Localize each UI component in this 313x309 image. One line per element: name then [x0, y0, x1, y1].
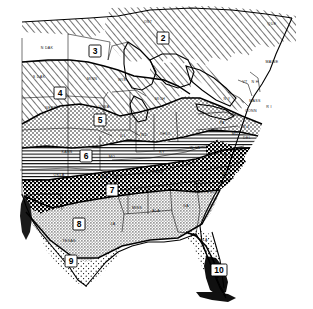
state-label: R I: [266, 105, 272, 109]
state-label: PA: [219, 121, 224, 125]
state-label: ARK: [100, 175, 109, 179]
state-label: KY: [159, 150, 165, 154]
state-label: ALA: [152, 209, 160, 213]
state-label: CONN: [245, 109, 257, 113]
zone-label-text: 2: [161, 33, 166, 43]
state-label: N C: [222, 171, 229, 175]
state-label: ONT: [144, 20, 153, 24]
zone-label-4: 4: [54, 87, 66, 99]
state-label: N DAK: [41, 46, 54, 50]
zone-label-3: 3: [89, 45, 101, 57]
state-label: S DAK: [33, 75, 46, 79]
state-label: MICH: [155, 97, 166, 101]
zone-label-5: 5: [94, 114, 106, 126]
zone-label-text: 9: [69, 256, 74, 266]
state-label: IND: [140, 133, 147, 137]
state-label: ILL: [120, 134, 126, 138]
state-label: MAINE: [265, 60, 278, 64]
state-label: IOWA: [99, 105, 110, 109]
state-label: QUE: [268, 22, 277, 26]
hardiness-zone-map: N DAKS DAKNEBRMINNWISMICHIOWAILLINDOHIOK…: [0, 0, 313, 309]
zone-label-6: 6: [80, 150, 92, 162]
zone-label-10: 10: [211, 264, 227, 276]
zone-label-text: 8: [77, 219, 82, 229]
state-label: S C: [206, 190, 213, 194]
zone-label-text: 10: [214, 265, 224, 275]
state-label: MINN: [87, 77, 98, 81]
state-label: MISS: [132, 206, 142, 210]
state-label: N Y: [224, 97, 231, 101]
state-label: N H: [251, 80, 258, 84]
state-label: MD: [232, 132, 238, 136]
state-label: MO: [109, 155, 116, 159]
zone-label-7: 7: [106, 184, 118, 196]
zone-label-text: 5: [98, 115, 103, 125]
state-label: FLA: [200, 238, 208, 242]
zone-label-text: 7: [110, 185, 115, 195]
state-label: W VA: [190, 146, 201, 150]
state-label: DEL: [243, 136, 251, 140]
state-label: MASS: [249, 99, 261, 103]
state-label: KANS: [61, 150, 72, 154]
zone-label-text: 6: [84, 151, 89, 161]
state-label: VA: [222, 153, 227, 157]
state-label: N J: [243, 125, 249, 129]
zone-label-text: 3: [93, 46, 98, 56]
state-label: TEXAS: [62, 239, 76, 243]
zone-label-2: 2: [157, 32, 169, 44]
state-label: NEBR: [45, 106, 56, 110]
zone-label-text: 4: [58, 88, 63, 98]
state-label: VT: [242, 80, 248, 84]
map-canvas: N DAKS DAKNEBRMINNWISMICHIOWAILLINDOHIOK…: [0, 0, 313, 309]
state-label: LA: [110, 222, 115, 226]
zone-label-9: 9: [65, 255, 77, 267]
state-label: TENN: [152, 170, 163, 174]
state-label: OHIO: [160, 132, 171, 136]
state-label: WIS: [118, 78, 126, 82]
state-label: GA: [183, 204, 189, 208]
zone-label-8: 8: [73, 218, 85, 230]
state-label: OKLA: [54, 173, 65, 177]
